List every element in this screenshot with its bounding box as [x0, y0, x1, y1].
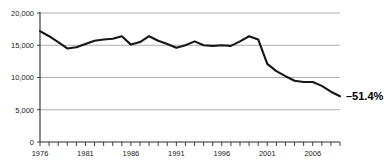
- x-tick-marks: [40, 142, 340, 146]
- x-tick-label: 2001: [259, 149, 276, 158]
- x-tick-label: 1991: [168, 149, 185, 158]
- axes: [37, 12, 340, 142]
- y-tick-label: 10,000: [11, 73, 34, 82]
- series-line-value: [40, 31, 340, 96]
- x-tick-label: 1976: [32, 149, 49, 158]
- y-tick-label: 15,000: [11, 41, 34, 50]
- x-tick-label: 1986: [123, 149, 140, 158]
- x-tick-label: 2006: [304, 149, 321, 158]
- data-series: [40, 31, 340, 96]
- gridlines: [40, 13, 340, 110]
- x-tick-label: 1996: [213, 149, 230, 158]
- y-axis-tick-labels: 05,00010,00015,00020,000: [11, 9, 34, 147]
- x-tick-label: 1981: [77, 149, 94, 158]
- y-tick-label: 0: [30, 138, 34, 147]
- chart-annotations: –51.4%: [346, 90, 384, 102]
- y-tick-label: 5,000: [15, 106, 34, 115]
- x-axis-tick-labels: 1976198119861991199620012006: [32, 149, 321, 158]
- chart-container: 05,00010,00015,00020,000 197619811986199…: [0, 0, 384, 168]
- y-tick-label: 20,000: [11, 9, 34, 18]
- change-annotation: –51.4%: [346, 90, 384, 102]
- line-chart: 05,00010,00015,00020,000 197619811986199…: [0, 0, 384, 168]
